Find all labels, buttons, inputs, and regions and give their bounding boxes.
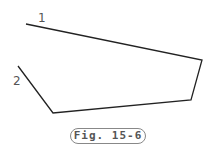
figure-canvas: 1 2 Fig. 15-6: [0, 0, 213, 155]
figure-caption: Fig. 15-6: [70, 128, 146, 144]
label-1: 1: [38, 12, 46, 24]
label-2: 2: [13, 75, 21, 87]
